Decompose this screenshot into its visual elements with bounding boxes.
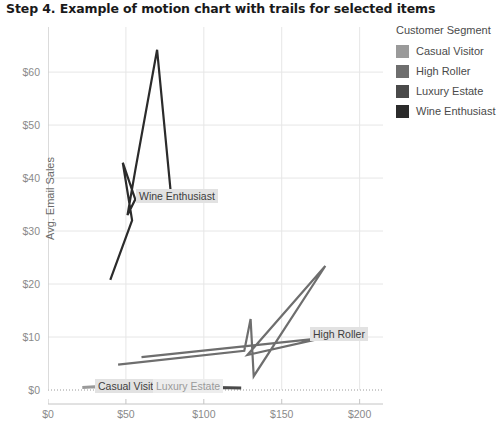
chart-canvas xyxy=(48,27,383,412)
x-tick-label: $100 xyxy=(192,408,215,420)
legend: Customer Segment Casual VisitorHigh Roll… xyxy=(396,24,502,121)
y-tick-label: $40 xyxy=(0,172,40,184)
page-title: Step 4. Example of motion chart with tra… xyxy=(6,1,435,16)
legend-swatch-icon xyxy=(396,65,409,78)
legend-swatch-icon xyxy=(396,105,409,118)
trail-label-wine-enthusiast: Wine Enthusiast xyxy=(136,189,218,203)
legend-item-wine-enthusiast[interactable]: Wine Enthusiast xyxy=(396,101,502,121)
y-tick-label: $0 xyxy=(0,384,40,396)
trail-label-high-roller: High Roller xyxy=(310,327,368,341)
legend-item-label: Luxury Estate xyxy=(416,85,483,97)
x-tick-label: $150 xyxy=(270,408,293,420)
y-tick-label: $10 xyxy=(0,331,40,343)
y-tick-label: $50 xyxy=(0,119,40,131)
legend-title: Customer Segment xyxy=(396,24,502,36)
legend-item-label: Wine Enthusiast xyxy=(416,105,495,117)
plot-area: $0$10$20$30$40$50$60 $0$50$100$150$200 A… xyxy=(48,27,383,412)
trail-high-roller xyxy=(118,266,325,376)
y-tick-label: $20 xyxy=(0,278,40,290)
trail-label-luxury-estate: Luxury Estate xyxy=(153,379,223,393)
legend-item-luxury-estate[interactable]: Luxury Estate xyxy=(396,81,502,101)
legend-item-label: Casual Visitor xyxy=(416,45,484,57)
legend-swatch-icon xyxy=(396,85,409,98)
y-axis-title: Avg. Email Sales xyxy=(44,157,56,240)
legend-item-label: High Roller xyxy=(416,65,470,77)
legend-item-casual-visitor[interactable]: Casual Visitor xyxy=(396,41,502,61)
x-tick-label: $0 xyxy=(42,408,54,420)
trail-wine-enthusiast xyxy=(110,50,171,280)
legend-item-high-roller[interactable]: High Roller xyxy=(396,61,502,81)
legend-items: Casual VisitorHigh RollerLuxury EstateWi… xyxy=(396,41,502,121)
y-tick-label: $60 xyxy=(0,66,40,78)
legend-swatch-icon xyxy=(396,45,409,58)
x-tick-label: $200 xyxy=(348,408,371,420)
chart-page: Step 4. Example of motion chart with tra… xyxy=(0,0,502,448)
x-tick-label: $50 xyxy=(117,408,135,420)
y-tick-label: $30 xyxy=(0,225,40,237)
